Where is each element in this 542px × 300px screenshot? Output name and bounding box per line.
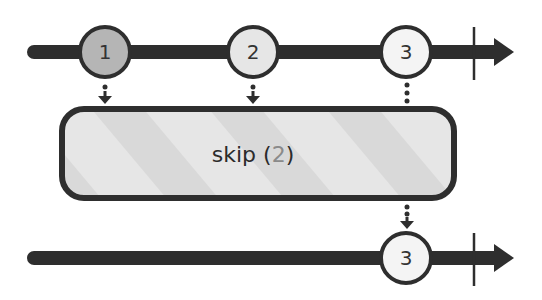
- input-connectors: [98, 83, 410, 105]
- operator-argument: 2: [272, 142, 286, 167]
- connector-dotted-3-icon: [405, 83, 410, 104]
- connector-arrow-2-icon: [246, 85, 260, 105]
- operator-label: skip (2): [212, 142, 294, 167]
- input-marble-2-label: 2: [247, 40, 260, 64]
- input-marble-1-label: 1: [99, 40, 112, 64]
- connector-arrow-1-icon: [98, 85, 112, 105]
- input-marble-3: 3: [381, 27, 431, 77]
- output-marble-3-label: 3: [400, 246, 413, 270]
- input-marble-3-label: 3: [400, 40, 413, 64]
- operator-box: skip (2): [62, 109, 454, 198]
- input-arrowhead-icon: [494, 38, 514, 66]
- output-stream: 3: [34, 233, 514, 286]
- output-connector-arrow-icon: [400, 205, 414, 230]
- input-marble-1: 1: [80, 27, 130, 77]
- input-marble-2: 2: [228, 27, 278, 77]
- input-stream: 1 2 3: [34, 27, 514, 80]
- output-arrowhead-icon: [494, 244, 514, 272]
- marble-diagram: 1 2 3 skip (2): [0, 0, 542, 300]
- output-marble-3: 3: [381, 233, 431, 283]
